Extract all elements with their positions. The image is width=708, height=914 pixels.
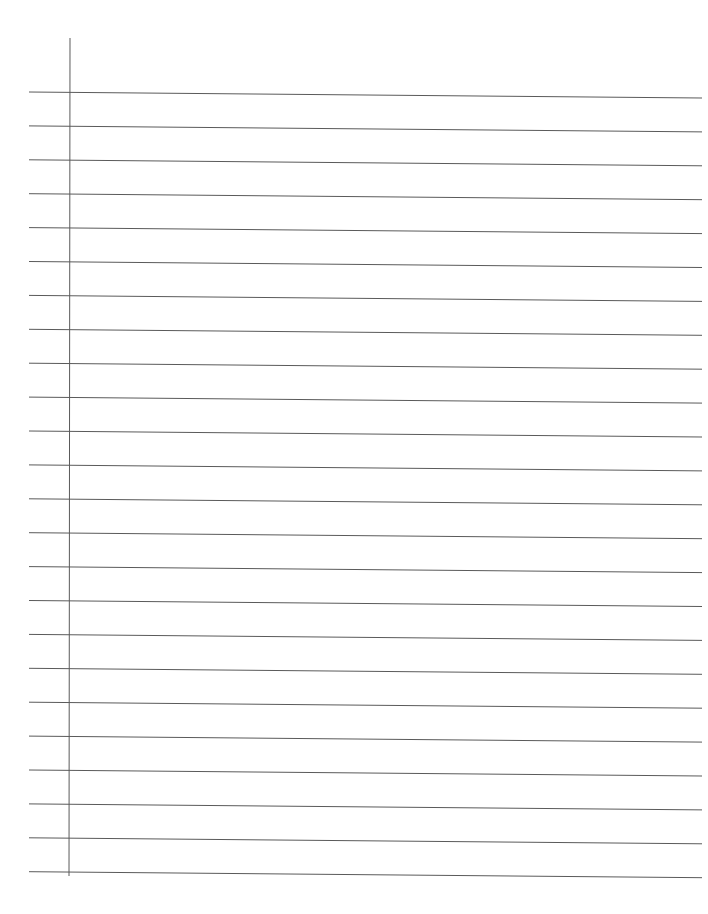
horizontal-rules <box>29 92 702 878</box>
ruled-line <box>29 262 702 268</box>
ruled-line <box>29 804 702 810</box>
ruled-line <box>29 465 702 471</box>
ruled-line <box>29 838 702 844</box>
ruled-line <box>29 126 702 132</box>
margin-line <box>69 38 70 876</box>
ruled-line <box>29 194 702 200</box>
ruled-line <box>29 329 702 335</box>
ruled-line <box>29 702 702 708</box>
ruled-line <box>29 228 702 234</box>
ruled-line <box>29 668 702 674</box>
lined-paper <box>0 0 708 914</box>
ruled-line <box>29 533 702 539</box>
ruled-line <box>29 736 702 742</box>
ruled-line <box>29 499 702 505</box>
ruled-line <box>29 92 702 98</box>
ruled-line <box>29 770 702 776</box>
ruled-line <box>29 160 702 166</box>
ruled-line <box>29 872 702 878</box>
ruled-line <box>29 567 702 573</box>
ruled-line <box>29 634 702 640</box>
ruled-line <box>29 601 702 607</box>
ruled-line <box>29 431 702 437</box>
ruled-line <box>29 397 702 403</box>
ruled-line <box>29 363 702 369</box>
ruled-line <box>29 295 702 301</box>
